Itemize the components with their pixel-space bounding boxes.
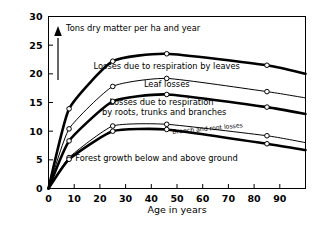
- data-point-marker: [265, 133, 270, 138]
- band-label: Leaf losses: [144, 79, 190, 89]
- y-axis-title: Tons dry matter per ha and year: [65, 23, 201, 33]
- data-point-marker: [67, 157, 72, 162]
- data-point-marker: [110, 129, 115, 134]
- data-point-marker: [265, 89, 270, 94]
- data-point-marker: [110, 124, 115, 129]
- band-label: Forest growth below and above ground: [75, 153, 237, 163]
- y-tick-label: 15: [29, 97, 42, 108]
- x-tick-label: 0: [45, 193, 52, 204]
- data-point-marker: [265, 63, 270, 68]
- x-tick-label: 80: [247, 193, 261, 204]
- band-label: by roots, trunks and branches: [102, 107, 227, 117]
- data-point-marker: [164, 127, 169, 132]
- y-tick-label: 0: [36, 183, 43, 194]
- data-point-marker: [265, 105, 270, 110]
- data-point-marker: [265, 141, 270, 146]
- band-label: Losses due to respiration by leaves: [94, 61, 240, 71]
- x-tick-label: 30: [119, 193, 133, 204]
- x-tick-label: 10: [68, 193, 82, 204]
- x-tick-label: 20: [93, 193, 107, 204]
- x-tick-label: 70: [222, 193, 236, 204]
- data-point-marker: [67, 139, 72, 144]
- chart-container: 0102030405060708090051015202530 Tons dry…: [0, 0, 330, 225]
- x-tick-label: 50: [170, 193, 184, 204]
- data-point-marker: [164, 51, 169, 56]
- data-point-marker: [164, 122, 169, 127]
- y-tick-label: 30: [29, 11, 43, 22]
- y-tick-label: 25: [29, 40, 42, 51]
- y-tick-label: 5: [36, 154, 43, 165]
- forest-biomass-line-chart: 0102030405060708090051015202530 Tons dry…: [0, 0, 330, 225]
- x-tick-label: 60: [196, 193, 210, 204]
- y-tick-label: 10: [29, 126, 43, 137]
- x-axis-title: Age in years: [147, 204, 206, 215]
- data-point-marker: [67, 127, 72, 132]
- x-tick-label: 40: [145, 193, 159, 204]
- data-point-marker: [67, 107, 72, 112]
- band-label: Losses due to respiration: [110, 97, 214, 107]
- y-tick-label: 20: [29, 68, 43, 79]
- x-tick-label: 90: [273, 193, 287, 204]
- data-point-marker: [110, 84, 115, 89]
